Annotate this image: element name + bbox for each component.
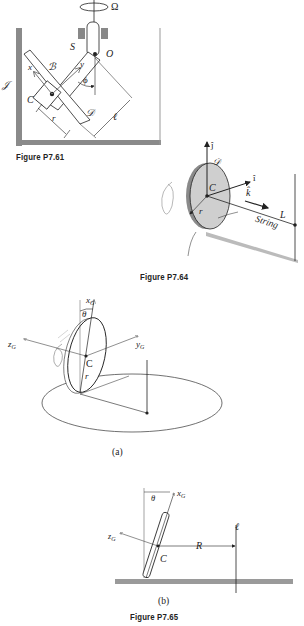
theta-label: θ	[151, 494, 155, 503]
zg-label: zG	[8, 340, 16, 350]
l-label: ℓ	[113, 112, 117, 122]
figure-p7-61-drawing	[16, 0, 161, 146]
l-length-label: L	[280, 210, 286, 220]
b-label: ℬ	[48, 62, 56, 72]
c-label: C	[209, 183, 216, 193]
y-label: y	[80, 60, 84, 69]
part-a-label: (a)	[112, 448, 123, 458]
j-label: 𝒥	[2, 80, 9, 90]
figure-p7-65b-drawing	[115, 488, 293, 593]
figure-drawings	[0, 0, 304, 626]
figure-caption-p7-65: Figure P7.65	[130, 611, 178, 622]
yg-label: yG	[136, 340, 144, 350]
i-hat-label: î	[253, 174, 256, 183]
r-label: r	[52, 114, 56, 123]
part-b-label: (b)	[158, 597, 169, 607]
c-label: C	[160, 554, 167, 564]
figure-p7-65a-drawing	[24, 300, 222, 432]
figure-caption-p7-64: Figure P7.64	[140, 271, 188, 282]
c-label: C	[27, 95, 34, 105]
r-label: r	[199, 207, 203, 216]
omega-label: Ω	[111, 2, 118, 12]
d-label: 𝒟	[213, 158, 220, 167]
j-hat-label: ĵ	[211, 141, 214, 150]
figure-p7-64-drawing	[162, 142, 298, 263]
xg-label: xG	[86, 296, 94, 306]
phi-label: ϕ	[83, 76, 88, 85]
l-axis-label: ℓ	[235, 522, 239, 532]
r-distance-label: R	[196, 541, 202, 551]
x-label: x	[28, 63, 32, 72]
d-label: 𝒟	[86, 108, 94, 118]
c-label: C	[86, 359, 93, 369]
s-label: S	[70, 42, 75, 52]
theta-label: θ	[82, 310, 86, 319]
r-label: r	[85, 372, 89, 381]
zg-label: zG	[108, 533, 115, 542]
figure-caption-p7-61: Figure P7.61	[16, 151, 64, 162]
xg-label: xG	[177, 489, 185, 499]
o-label: O	[106, 49, 113, 59]
k-hat-label: k̂	[246, 188, 250, 198]
